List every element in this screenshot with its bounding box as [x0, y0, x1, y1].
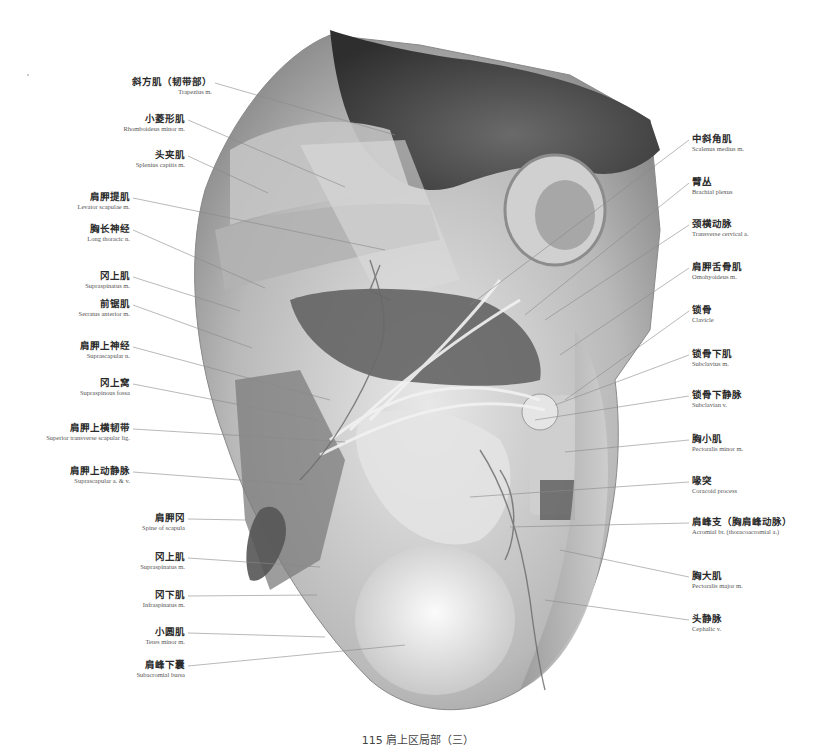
- label-suprascapular-n: 肩胛上神经Suprascapular n.: [80, 341, 130, 359]
- label-spine-of-scapula: 肩胛冈Spine of scapula: [142, 513, 185, 531]
- label-supraspinatus-lower: 冈上肌Supraspinatus m.: [140, 552, 185, 570]
- label-acromial-branch: 肩峰支（胸肩峰动脉）Acromial br. (thoracoacromial …: [692, 517, 792, 535]
- label-subacromial-bursa: 肩峰下囊Subacromial bursa: [136, 660, 185, 678]
- label-serratus-anterior: 前锯肌Serratus anterior m.: [79, 299, 130, 317]
- label-trapezius: 斜方肌（韧带部）Trapezius m.: [132, 77, 212, 95]
- label-omohyoideus: 肩胛舌骨肌Omohyoideus m.: [692, 262, 742, 280]
- stray-mark: [27, 74, 29, 76]
- label-rhomboideus-minor: 小菱形肌Rhomboideus minor m.: [123, 114, 185, 132]
- label-infraspinatus: 冈下肌Infraspinatus m.: [143, 590, 185, 608]
- label-pectoralis-major: 胸大肌Pectoralis major m.: [692, 571, 743, 589]
- label-subclavian-v: 锁骨下静脉Subclavian v.: [692, 390, 742, 408]
- label-brachial-plexus: 臂丛Brachial plexus: [692, 177, 733, 195]
- figure-caption: 115 肩上区局部（三）: [0, 731, 836, 747]
- label-coracoid-process: 喙突Coracoid process: [692, 476, 737, 494]
- label-clavicle: 锁骨Clavicle: [692, 305, 714, 323]
- label-long-thoracic-n: 胸长神经Long thoracic n.: [87, 224, 130, 242]
- label-transverse-cervical-a: 颈横动脉Transverse cervical a.: [692, 219, 749, 237]
- label-scalenus-medius: 中斜角肌Scalenus medius m.: [692, 134, 744, 152]
- label-subclavius: 锁骨下肌Subclavius m.: [692, 349, 732, 367]
- label-cephalic-v: 头静脉Cephalic v.: [692, 614, 722, 632]
- label-teres-minor: 小圆肌Teres minor m.: [146, 627, 185, 645]
- label-supraspinatus-upper: 冈上肌Supraspinatus m.: [85, 271, 130, 289]
- label-levator-scapulae: 肩胛提肌Levator scapulae m.: [77, 192, 130, 210]
- label-splenius-capitis: 头夹肌Splenius capitis m.: [136, 150, 185, 168]
- label-superior-transverse-scapular-lig: 肩胛上横韧带Superior transverse scapular lig.: [46, 423, 130, 441]
- label-suprascapular-a-v: 肩胛上动静脉Suprascapular a. & v.: [70, 466, 130, 484]
- label-supraspinous-fossa: 冈上窝Supraspinous fossa: [80, 378, 130, 396]
- label-pectoralis-minor: 胸小肌Pectoralis minor m.: [692, 434, 743, 452]
